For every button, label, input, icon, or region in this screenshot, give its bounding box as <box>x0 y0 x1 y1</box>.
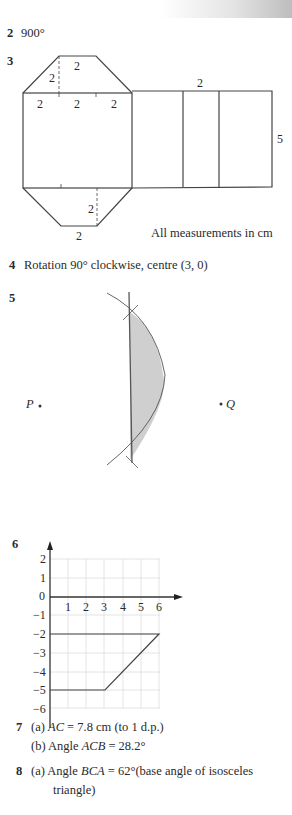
question-4-answer: Rotation 90° clockwise, centre (3, 0) <box>24 258 208 273</box>
svg-text:2: 2 <box>40 552 46 566</box>
question-8a: (a) Angle BCA = 62°(base angle of isosce… <box>31 764 253 779</box>
prism-net-diagram: 2 2 2 2 2 2 5 2 2 21 0 −1−2 −3−4 −5−6 12… <box>0 0 292 815</box>
svg-text:6: 6 <box>156 600 162 614</box>
svg-text:−1: −1 <box>33 608 46 622</box>
question-7a: (a) AC = 7.8 cm (to 1 d.p.) <box>31 720 164 735</box>
point-p-label: P <box>26 397 34 412</box>
label-bottom-height: 2 <box>88 202 94 216</box>
label-top-width: 2 <box>74 59 80 73</box>
measurement-note: All measurements in cm <box>151 226 273 241</box>
label-slant-height: 2 <box>49 71 55 85</box>
answer-text: = 28.2° <box>105 739 145 753</box>
svg-text:−4: −4 <box>33 665 46 679</box>
variable: ACB <box>82 739 106 753</box>
question-5-number: 5 <box>9 291 15 306</box>
question-7b: (b) Angle ACB = 28.2° <box>31 739 146 754</box>
label-base-3: 2 <box>111 97 117 111</box>
question-7-number: 7 <box>16 720 22 735</box>
answer-text: = 62°(base angle of isosceles <box>105 764 253 778</box>
answer-text: = 7.8 cm (to 1 d.p.) <box>64 720 164 734</box>
part-label: (a) <box>31 764 45 778</box>
label-right-height: 5 <box>277 132 283 146</box>
question-8a-continued: triangle) <box>53 783 95 798</box>
svg-text:−5: −5 <box>33 683 46 697</box>
svg-text:−6: −6 <box>33 702 46 716</box>
variable: BCA <box>81 764 105 778</box>
svg-text:1: 1 <box>40 571 46 585</box>
svg-text:−2: −2 <box>33 627 46 641</box>
part-label: (a) <box>31 720 45 734</box>
label-base-1: 2 <box>37 97 43 111</box>
answer-prefix: Angle <box>47 764 81 778</box>
label-right-top: 2 <box>197 76 203 90</box>
point-q-label: Q <box>226 397 235 412</box>
answer-prefix: Angle <box>48 739 82 753</box>
svg-text:0: 0 <box>39 589 45 603</box>
question-4-number: 4 <box>9 258 15 273</box>
variable: AC <box>48 720 64 734</box>
svg-text:2: 2 <box>83 600 89 614</box>
svg-text:1: 1 <box>65 600 71 614</box>
svg-text:−3: −3 <box>33 646 46 660</box>
svg-text:4: 4 <box>120 600 126 614</box>
label-bottom-width: 2 <box>76 229 82 243</box>
svg-text:3: 3 <box>101 600 107 614</box>
question-6-number: 6 <box>12 537 18 552</box>
question-8-number: 8 <box>16 764 22 779</box>
label-base-2: 2 <box>74 97 80 111</box>
svg-text:5: 5 <box>138 600 144 614</box>
part-label: (b) <box>31 739 46 753</box>
